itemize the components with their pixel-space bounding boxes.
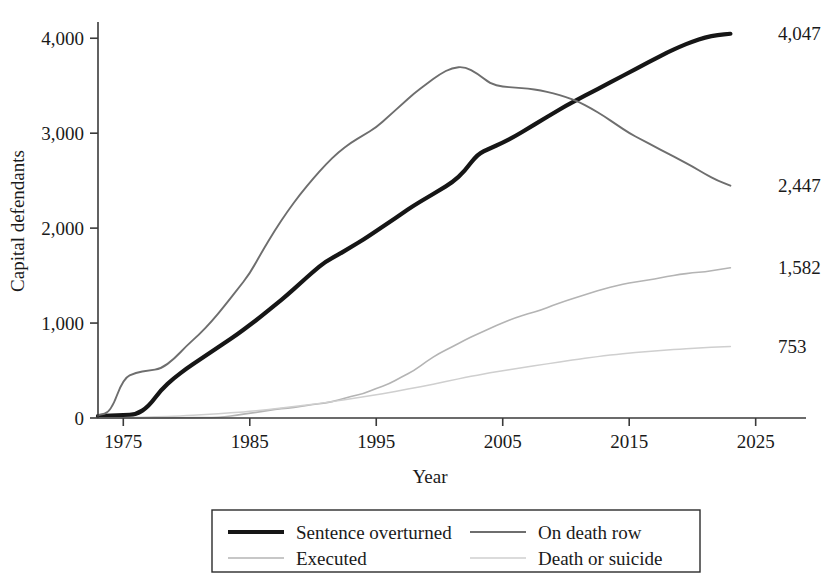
axes-group bbox=[90, 22, 806, 426]
x-tick-label: 2015 bbox=[610, 431, 648, 452]
series-line-death_or_suicide bbox=[98, 347, 730, 418]
end-label-death_or_suicide: 753 bbox=[778, 336, 807, 357]
y-tick-label: 1,000 bbox=[41, 313, 84, 334]
series-line-executed bbox=[98, 268, 730, 418]
line-chart: 01,0002,0003,0004,0001975198519952005201… bbox=[0, 0, 829, 575]
legend-group: Sentence overturnedOn death rowExecutedD… bbox=[212, 510, 700, 572]
end-label-on_death_row: 2,447 bbox=[778, 175, 821, 196]
series-group bbox=[98, 34, 730, 418]
y-tick-label: 0 bbox=[75, 408, 85, 429]
legend-label-executed: Executed bbox=[296, 548, 367, 569]
y-axis-title: Capital defendants bbox=[7, 150, 28, 292]
legend-label-sentence_overturned: Sentence overturned bbox=[296, 522, 452, 543]
series-line-sentence_overturned bbox=[98, 34, 730, 416]
end-label-executed: 1,582 bbox=[778, 257, 821, 278]
legend-label-on_death_row: On death row bbox=[538, 522, 642, 543]
legend-label-death_or_suicide: Death or suicide bbox=[538, 548, 663, 569]
x-tick-label: 2005 bbox=[484, 431, 522, 452]
x-tick-label: 1985 bbox=[231, 431, 269, 452]
chart-figure: 01,0002,0003,0004,0001975198519952005201… bbox=[0, 0, 829, 575]
x-tick-label: 1975 bbox=[104, 431, 142, 452]
y-tick-label: 3,000 bbox=[41, 123, 84, 144]
y-tick-label: 4,000 bbox=[41, 28, 84, 49]
x-tick-label: 1995 bbox=[357, 431, 395, 452]
end-labels-group: 4,0472,4471,582753 bbox=[778, 23, 821, 357]
y-tick-label: 2,000 bbox=[41, 218, 84, 239]
x-axis-title: Year bbox=[412, 466, 448, 487]
end-label-sentence_overturned: 4,047 bbox=[778, 23, 821, 44]
x-tick-label: 2025 bbox=[737, 431, 775, 452]
